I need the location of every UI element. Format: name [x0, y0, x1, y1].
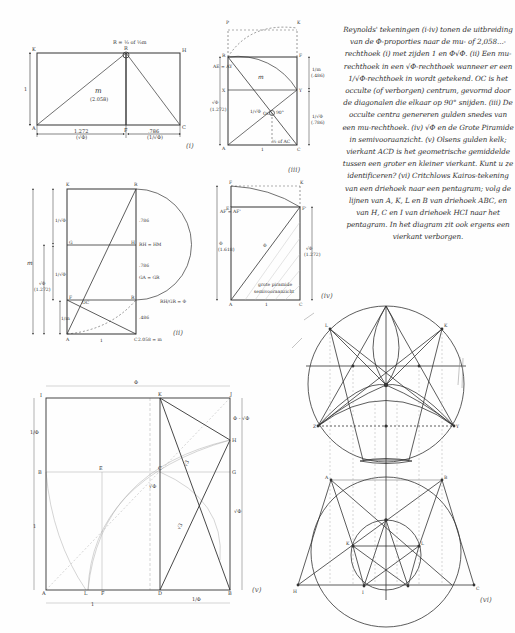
svg-text:Φ: Φ — [219, 241, 223, 246]
svg-text:1: 1 — [24, 86, 27, 92]
fig-i-top-note: R = ½ of ½m — [113, 39, 147, 45]
svg-text:H: H — [131, 240, 135, 245]
figure-vi — [292, 306, 475, 627]
svg-text:.486: .486 — [139, 315, 149, 320]
svg-text:Φ - √Φ: Φ - √Φ — [233, 415, 249, 421]
svg-text:I: I — [40, 392, 42, 398]
svg-text:√3: √3 — [182, 459, 190, 467]
point-b: B — [444, 475, 448, 480]
svg-text:F': F' — [302, 206, 306, 211]
svg-text:2.058 = m: 2.058 = m — [138, 337, 163, 342]
svg-text:1: 1 — [91, 601, 94, 607]
svg-text:(1.272): (1.272) — [34, 287, 51, 292]
svg-text:K: K — [32, 46, 36, 52]
svg-text:1: 1 — [33, 523, 36, 529]
svg-text:R: R — [124, 45, 128, 51]
svg-text:1/Φ: 1/Φ — [192, 596, 201, 602]
svg-text:R: R — [222, 53, 226, 58]
svg-text:C: C — [299, 302, 303, 307]
svg-text:AF = AF': AF = AF' — [219, 209, 241, 214]
svg-text:C: C — [158, 465, 162, 471]
geometric-drawings: R = ½ of ½m K R H A F C 1 m (2.058) 1.27… — [0, 0, 515, 633]
svg-text:F: F — [299, 53, 302, 58]
figure-v — [34, 386, 242, 603]
svg-text:1/√Φ: 1/√Φ — [55, 218, 66, 223]
svg-text:H: H — [293, 589, 297, 594]
svg-text:C: C — [476, 586, 480, 591]
svg-text:1/√Φ: 1/√Φ — [55, 272, 66, 277]
svg-text:RH/GR = Φ: RH/GR = Φ — [160, 299, 186, 304]
svg-text:G: G — [69, 240, 73, 245]
svg-text:Φ: Φ — [263, 243, 267, 248]
svg-text:L: L — [325, 323, 328, 328]
svg-text:√Φ: √Φ — [234, 508, 241, 514]
svg-text:√Φ: √Φ — [306, 246, 313, 251]
svg-text:E: E — [99, 465, 103, 471]
svg-text:Y: Y — [298, 88, 303, 93]
svg-text:1/√Φ: 1/√Φ — [312, 114, 323, 119]
svg-text:L: L — [421, 541, 424, 546]
svg-text:C: C — [182, 124, 186, 130]
svg-text:√Φ: √Φ — [149, 483, 156, 489]
svg-text:R: R — [131, 295, 135, 300]
svg-text:B: B — [38, 469, 42, 475]
svg-text:(ii): (ii) — [173, 329, 183, 337]
svg-text:(v): (v) — [252, 586, 262, 594]
svg-text:.786: .786 — [139, 218, 149, 223]
svg-text:AE = AY: AE = AY — [212, 64, 233, 69]
svg-text:A: A — [65, 337, 70, 342]
svg-text:(2.058): (2.058) — [90, 96, 108, 102]
svg-text:L: L — [84, 590, 88, 596]
svg-text:(1/√Φ): (1/√Φ) — [147, 134, 163, 140]
svg-text:K: K — [300, 180, 304, 185]
svg-text:A: A — [228, 302, 233, 307]
figure-ii — [33, 189, 192, 334]
svg-text:X: X — [222, 88, 226, 93]
svg-text:J: J — [229, 391, 232, 398]
svg-text:GA = GR: GA = GR — [139, 275, 160, 280]
point-a: A — [324, 475, 329, 480]
svg-text:F: F — [69, 295, 72, 300]
svg-text:K: K — [297, 20, 301, 25]
svg-text:½ of AC: ½ of AC — [272, 139, 291, 144]
svg-text:(iii): (iii) — [288, 166, 300, 174]
svg-text:1/Φ: 1/Φ — [30, 429, 39, 435]
fig-i-numeral: (i) — [186, 142, 194, 150]
svg-text:(.786): (.786) — [311, 120, 325, 125]
svg-text:H: H — [232, 437, 237, 443]
svg-text:OC: OC — [82, 300, 90, 305]
svg-text:F: F — [229, 180, 232, 185]
svg-text:G: G — [232, 469, 236, 475]
svg-text:Y: Y — [455, 424, 460, 429]
svg-text:K: K — [346, 541, 350, 546]
svg-text:√Φ: √Φ — [212, 100, 219, 105]
svg-text:K: K — [158, 391, 162, 397]
svg-text:1: 1 — [265, 302, 268, 307]
svg-text:1/√Φ: 1/√Φ — [250, 109, 261, 114]
svg-text:1/m: 1/m — [61, 316, 70, 321]
svg-text:R: R — [134, 182, 138, 187]
svg-text:1: 1 — [100, 338, 103, 343]
svg-text:1/m: 1/m — [312, 67, 321, 72]
svg-text:C: C — [297, 147, 301, 152]
svg-text:K: K — [66, 182, 70, 187]
svg-text:D: D — [158, 590, 162, 596]
svg-text:m: m — [258, 73, 264, 80]
svg-text:F: F — [101, 590, 105, 596]
svg-text:(.486): (.486) — [311, 73, 325, 78]
svg-text:OC: OC — [263, 111, 271, 116]
svg-text:I: I — [362, 590, 364, 595]
pyramid-label: grote piramide — [258, 282, 292, 287]
book-page: Reynolds' tekeningen (i-iv) tonen de uit… — [0, 0, 515, 633]
svg-text:A: A — [221, 146, 226, 151]
svg-text:(1.272): (1.272) — [210, 107, 227, 112]
svg-text:1: 1 — [261, 147, 264, 152]
svg-text:A: A — [41, 590, 46, 596]
svg-text:Z: Z — [313, 424, 316, 429]
fig-i-center-label: m — [95, 87, 102, 95]
svg-text:√3: √3 — [175, 522, 183, 530]
svg-text:RH = HM: RH = HM — [139, 242, 162, 247]
svg-text:90°: 90° — [276, 110, 284, 115]
svg-text:(1.272): (1.272) — [304, 252, 321, 257]
svg-text:B: B — [228, 590, 232, 596]
